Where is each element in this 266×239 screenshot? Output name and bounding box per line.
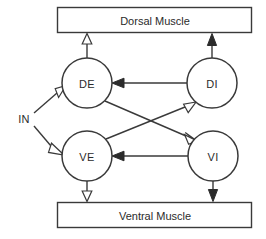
connection-de-to-dorsal-muscle	[82, 34, 92, 59]
arrowhead-filled-icon	[208, 190, 217, 202]
ventral-muscle-label: Ventral Muscle	[119, 210, 191, 222]
arrowhead-open-icon	[82, 34, 92, 45]
arrowhead-filled-icon	[112, 151, 124, 161]
connection-line	[105, 101, 186, 136]
arrowhead-open-icon	[184, 102, 196, 113]
vi-label: VI	[208, 151, 219, 163]
muscle-box-ventral: Ventral Muscle	[58, 203, 252, 228]
connection-line	[34, 93, 57, 113]
neuron-node-ve: VE	[62, 131, 112, 181]
ve-label: VE	[79, 151, 94, 163]
arrowhead-filled-icon	[112, 78, 124, 88]
dorsal-muscle-label: Dorsal Muscle	[120, 15, 190, 27]
connection-di-to-de	[112, 78, 187, 88]
di-label: DI	[206, 78, 218, 90]
connection-line	[34, 126, 51, 146]
neuron-node-vi: VI	[188, 131, 238, 181]
neuron-node-de: DE	[62, 58, 112, 108]
muscle-box-dorsal: Dorsal Muscle	[58, 8, 252, 33]
connection-line	[106, 107, 185, 139]
neural-circuit-diagram: Dorsal Muscle Ventral Muscle DE DI VE VI…	[0, 0, 266, 239]
connection-di-to-dorsal-muscle	[207, 34, 216, 59]
connection-vi-to-ventral-muscle	[208, 181, 217, 202]
connection-in-to-ve	[34, 126, 64, 155]
diagram-canvas: Dorsal Muscle Ventral Muscle DE DI VE VI…	[0, 0, 266, 239]
in-label: IN	[18, 113, 30, 125]
arrowhead-filled-icon	[207, 34, 216, 46]
connection-vi-to-ve	[112, 151, 188, 161]
connection-ve-to-ventral-muscle	[82, 181, 92, 202]
connection-in-to-de	[34, 86, 66, 114]
de-label: DE	[79, 78, 95, 90]
neuron-node-di: DI	[187, 58, 237, 108]
input-node-in: IN	[18, 113, 30, 125]
arrowhead-open-icon	[82, 191, 92, 202]
